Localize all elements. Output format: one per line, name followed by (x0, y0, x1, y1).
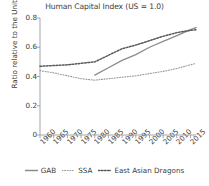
legend-item-ssa[interactable]: SSA (62, 166, 92, 175)
series-line-ssa (40, 63, 196, 80)
chart-figure: Human Capital Index (US = 1.0) Ratio rel… (0, 0, 209, 186)
chart-legend: GABSSAEast Asian Dragons (0, 166, 209, 175)
legend-swatch-icon (62, 167, 75, 174)
legend-label: East Asian Dragons (114, 166, 184, 175)
legend-swatch-icon (98, 167, 111, 174)
series-lines (40, 28, 196, 81)
plot-svg (40, 18, 196, 135)
legend-label: SSA (78, 166, 92, 175)
series-line-east-asian-dragons (40, 30, 196, 67)
axes (37, 18, 196, 138)
legend-label: GAB (41, 166, 56, 175)
series-line-gab (95, 28, 196, 76)
legend-swatch-icon (25, 167, 38, 174)
legend-item-gab[interactable]: GAB (25, 166, 56, 175)
legend-item-east-asian-dragons[interactable]: East Asian Dragons (98, 166, 184, 175)
plot-area (40, 18, 196, 135)
